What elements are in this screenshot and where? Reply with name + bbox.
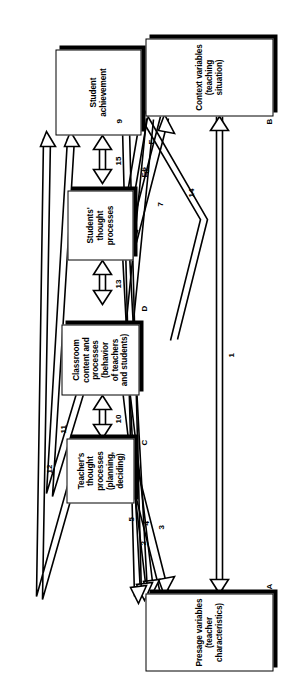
node-teacher-thought-processes[interactable]: Teacher's thought processes (planning, d… xyxy=(66,438,134,503)
edge-label-13: 13 xyxy=(113,279,122,288)
node-label-D: Classroom content and processes (behavio… xyxy=(70,331,130,387)
edge-label-11: 11 xyxy=(58,425,67,433)
node-label-B: Context variables (teaching situation) xyxy=(193,39,224,115)
node-students-thought-processes[interactable]: Students' thought processes xyxy=(67,190,133,260)
node-presage-variables[interactable]: Presage variables (teacher characteristi… xyxy=(145,593,273,671)
node-tag-D: D xyxy=(139,305,148,311)
node-context-variables[interactable]: Context variables (teaching situation) xyxy=(145,38,273,116)
node-label-E: Students' thought processes xyxy=(84,203,115,247)
diagram-rotor: Presage variables (teacher characteristi… xyxy=(0,0,287,689)
node-tag-F: F xyxy=(146,139,155,144)
diagram-content: Presage variables (teacher characteristi… xyxy=(0,0,287,689)
node-classroom-content-processes[interactable]: Classroom content and processes (behavio… xyxy=(61,324,139,395)
node-label-F: Student achievement xyxy=(87,66,108,119)
edge-label-7: 7 xyxy=(155,202,164,206)
edge-label-15: 15 xyxy=(113,156,122,165)
edge-label-1: 1 xyxy=(226,353,235,357)
edge-label-12: 12 xyxy=(44,464,53,473)
node-tag-A: A xyxy=(264,583,273,589)
edge-label-10: 10 xyxy=(113,414,122,423)
edge-13 xyxy=(93,260,111,304)
edge-10 xyxy=(93,395,111,438)
node-label-C: Teacher's thought processes (planning, d… xyxy=(75,449,125,493)
edge-label-8: 8 xyxy=(141,169,150,173)
edge-label-4: 4 xyxy=(141,521,150,525)
edge-label-14: 14 xyxy=(186,188,195,197)
node-tag-C: C xyxy=(139,439,148,445)
edge-label-3: 3 xyxy=(156,525,165,529)
edge-label-5: 5 xyxy=(126,517,135,521)
edge-15 xyxy=(93,135,111,183)
node-student-achievement[interactable]: Student achievement xyxy=(55,49,141,135)
node-label-A: Presage variables (teacher characteristi… xyxy=(193,594,224,670)
edge-1 xyxy=(210,116,228,593)
edge-label-2: 2 xyxy=(138,541,147,545)
edge-label-9: 9 xyxy=(114,119,123,123)
node-tag-B: B xyxy=(264,118,273,124)
diagram-canvas: Presage variables (teacher characteristi… xyxy=(0,0,287,689)
